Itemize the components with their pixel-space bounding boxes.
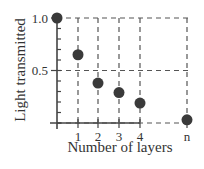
data-points	[52, 13, 193, 126]
x-axis-title: Number of layers	[68, 139, 173, 155]
data-point	[73, 49, 84, 60]
tick-labels: 1.00.51234n	[32, 11, 191, 145]
data-point	[93, 78, 104, 89]
y-tick-label: 0.5	[32, 63, 48, 78]
data-point	[135, 98, 146, 109]
data-point	[114, 87, 125, 98]
scatter-chart: 1.00.51234n Number of layers Light trans…	[0, 0, 204, 169]
grid-lines	[57, 18, 190, 123]
data-point	[182, 114, 193, 125]
data-point	[52, 13, 63, 24]
x-tick-label: n	[184, 129, 191, 144]
axes	[50, 16, 140, 129]
y-tick-label: 1.0	[32, 11, 48, 26]
y-axis-title: Light transmitted	[12, 18, 28, 122]
